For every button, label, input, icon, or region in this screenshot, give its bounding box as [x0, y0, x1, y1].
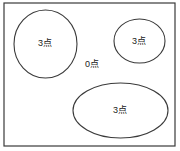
diagram-canvas: 3点 3点 3点 0点 [0, 0, 180, 151]
circle-left-label: 3点 [38, 39, 52, 48]
ellipse-right-label: 3点 [132, 37, 146, 46]
zero-points-label: 0点 [85, 60, 99, 69]
diagram-svg [0, 0, 180, 151]
outer-rectangle-frame [4, 3, 175, 146]
ellipse-bottom-label: 3点 [113, 106, 127, 115]
